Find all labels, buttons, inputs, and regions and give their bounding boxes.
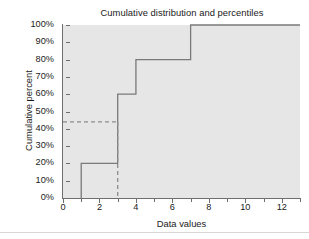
ecdf-step-line — [81, 25, 300, 198]
chart-figure: Cumulative distribution and percentiles … — [0, 0, 309, 239]
y-axis-title: Cumulative percent — [23, 31, 34, 191]
bottom-separator — [0, 232, 309, 233]
x-axis-title: Data values — [63, 218, 300, 229]
data-overlay — [0, 0, 309, 239]
